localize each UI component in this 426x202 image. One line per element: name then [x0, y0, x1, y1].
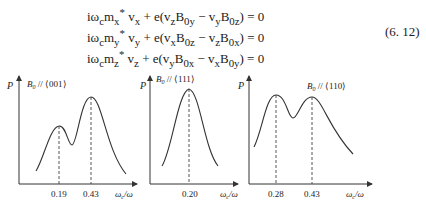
chart-001: P B0 // ⟨001⟩ 0.19 0.43 ωc/ω	[6, 76, 137, 200]
chart-title: B0 // ⟨001⟩	[27, 79, 67, 90]
chart-title: B0 // ⟨111⟩	[156, 74, 195, 85]
tick-label: 0.19	[51, 189, 67, 199]
chart-110: P B0 // ⟨110⟩ 0.28 0.43 ωc/ω	[237, 76, 372, 200]
x-axis-label: ωc/ω	[346, 189, 364, 200]
tick-label: 0.20	[182, 189, 198, 199]
x-axis-label: ωc/ω	[220, 189, 238, 200]
tick-label: 0.28	[268, 189, 284, 199]
y-axis-label: P	[139, 80, 146, 91]
x-axis-label: ωc/ω	[115, 189, 133, 200]
tick-label: 0.43	[83, 189, 99, 199]
y-axis-label: P	[6, 80, 13, 91]
y-axis-label: P	[237, 80, 244, 91]
curve	[36, 97, 126, 174]
curve	[162, 89, 218, 166]
chart-title: B0 // ⟨110⟩	[307, 81, 346, 92]
figures: P B0 // ⟨001⟩ 0.19 0.43 ωc/ω P B0 // ⟨11…	[0, 0, 426, 202]
tick-label: 0.43	[304, 189, 320, 199]
curve	[254, 95, 353, 154]
chart-111: P B0 // ⟨111⟩ 0.20 ωc/ω	[139, 74, 238, 200]
